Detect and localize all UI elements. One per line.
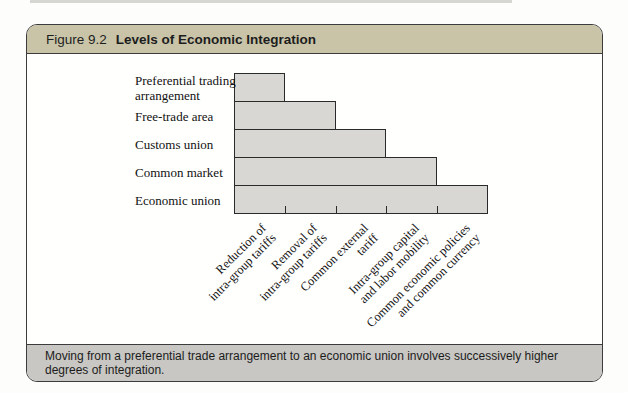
axis-tick <box>386 206 387 213</box>
chart-bar <box>234 157 437 186</box>
category-label-line: Common market <box>135 164 223 179</box>
chart-bar <box>234 101 336 130</box>
scan-artifact-streak <box>30 0 512 3</box>
chart-bar <box>234 185 488 214</box>
chart-area: Preferential tradingarrangementReduction… <box>27 25 602 381</box>
axis-tick <box>336 206 337 213</box>
figure-box: Figure 9.2 Levels of Economic Integratio… <box>26 24 603 382</box>
caption-text: Moving from a preferential trade arrange… <box>45 349 584 377</box>
axis-tick <box>437 206 438 213</box>
category-label: Economic union <box>135 192 221 207</box>
chart-bar <box>234 73 285 102</box>
category-label-line: arrangement <box>135 88 236 103</box>
category-label-line: Preferential trading <box>135 73 236 88</box>
axis-tick <box>285 206 286 213</box>
category-label-line: Customs union <box>135 136 213 151</box>
category-label: Common market <box>135 164 223 179</box>
category-label: Free-trade area <box>135 108 213 123</box>
category-label-line: Free-trade area <box>135 108 213 123</box>
figure-caption: Moving from a preferential trade arrange… <box>27 344 602 381</box>
category-label: Customs union <box>135 136 213 151</box>
category-label: Preferential tradingarrangement <box>135 73 236 103</box>
category-label-line: Economic union <box>135 192 221 207</box>
chart-bar <box>234 129 386 158</box>
